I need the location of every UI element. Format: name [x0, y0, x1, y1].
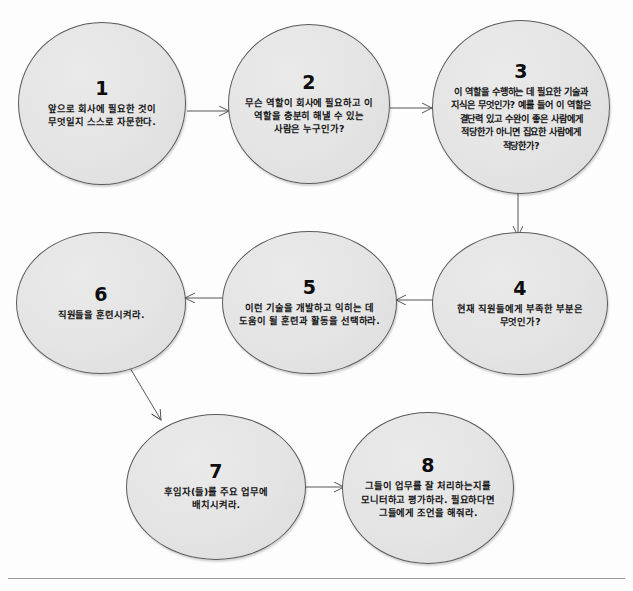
flow-node-7-text: 후임자(들)를 주요 업무에 배치시켜라. [139, 485, 293, 511]
connector-6-to-7 [130, 368, 161, 420]
diagram-page: 1 앞으로 회사에 필요한 것이 무엇일지 스스로 자문한다. 2 무슨 역할이… [0, 0, 633, 591]
page-bottom-rule [8, 578, 625, 579]
flow-node-3-number: 3 [514, 62, 527, 82]
flow-node-2[interactable]: 2 무슨 역할이 회사에 필요하고 이 역할을 충분히 해낼 수 있는 사람은 … [228, 24, 390, 184]
flow-node-6[interactable]: 6 직원들을 훈련시켜라. [16, 232, 186, 374]
flow-node-4-text: 현재 직원들에게 부족한 부분은 무엇인가? [445, 302, 595, 328]
flow-node-1-number: 1 [95, 79, 108, 99]
flow-node-7[interactable]: 7 후임자(들)를 주요 업무에 배치시켜라. [126, 414, 306, 560]
flow-node-8[interactable]: 8 그들이 업무를 잘 처리하는지를 모니터하고 평가하라. 필요하다면 그들에… [342, 412, 514, 564]
flow-node-8-text: 그들이 업무를 잘 처리하는지를 모니터하고 평가하라. 필요하다면 그들에게 … [355, 479, 501, 521]
flow-node-1[interactable]: 1 앞으로 회사에 필요한 것이 무엇일지 스스로 자문한다. [18, 22, 186, 185]
flow-node-4[interactable]: 4 현재 직원들에게 부족한 부분은 무엇인가? [432, 232, 608, 375]
flow-node-8-number: 8 [421, 456, 434, 476]
flow-node-3[interactable]: 3 이 역할을 수행하는 데 필요한 기술과 지식은 무엇인가? 예를 들어 이… [432, 20, 610, 194]
flow-node-5[interactable]: 5 이런 기술을 개발하고 익히는 데 도움이 될 훈련과 활동을 선택하라. [222, 231, 397, 374]
flow-node-1-text: 앞으로 회사에 필요한 것이 무엇일지 스스로 자문한다. [31, 102, 173, 128]
flow-node-4-number: 4 [513, 279, 526, 299]
flow-node-3-text: 이 역할을 수행하는 데 필요한 기술과 지식은 무엇인가? 예를 들어 이 역… [445, 85, 597, 152]
flow-node-6-text: 직원들을 훈련시켜라. [58, 308, 145, 321]
flow-node-7-number: 7 [209, 462, 222, 482]
flow-node-2-number: 2 [302, 73, 315, 93]
flow-node-6-number: 6 [94, 285, 107, 305]
flow-node-5-number: 5 [303, 278, 316, 298]
flow-node-2-text: 무슨 역할이 회사에 필요하고 이 역할을 충분히 해낼 수 있는 사람은 누구… [241, 96, 377, 136]
flow-node-5-text: 이런 기술을 개발하고 익히는 데 도움이 될 훈련과 활동을 선택하라. [235, 301, 384, 327]
